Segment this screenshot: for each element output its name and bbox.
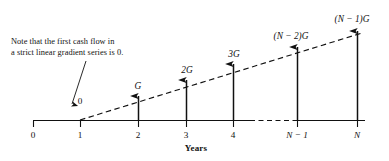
flow-label-G: G: [135, 81, 142, 91]
tick-label-n-minus-1: N − 1: [286, 130, 308, 140]
flow-label-N-minus-2-G: (N − 2)G: [274, 31, 309, 41]
tick-label-0: 0: [31, 130, 36, 140]
tick-label-4: 4: [231, 130, 236, 140]
flow-label-zero: 0: [78, 96, 83, 106]
tick-label-n: N: [354, 130, 360, 140]
tick-label-2: 2: [136, 130, 141, 140]
flow-label-N-minus-1-G: (N − 1)G: [335, 14, 370, 24]
flow-label-2G: 2G: [181, 65, 192, 75]
tick-label-1: 1: [78, 130, 83, 140]
axis-title-years: Years: [185, 143, 208, 153]
tick-label-3: 3: [184, 130, 189, 140]
cash-flow-diagram: Note that the first cash flow in a stric…: [0, 0, 389, 161]
annotation-note: Note that the first cash flow in a stric…: [11, 36, 166, 59]
diagram-canvas: [0, 0, 389, 161]
flow-label-3G: 3G: [228, 49, 239, 59]
